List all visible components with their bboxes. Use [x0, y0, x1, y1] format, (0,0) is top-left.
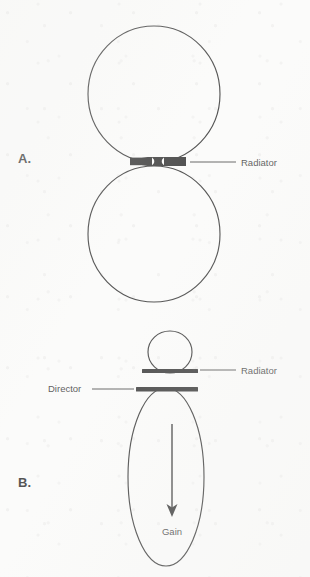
panel-b-letter: B.: [18, 475, 31, 490]
panel-b: B. Radiator Director Gain: [18, 331, 277, 566]
panel-a-radiator-bar-body: [130, 158, 186, 166]
panel-a: A. Radiator: [18, 26, 277, 302]
panel-a-radiator-label: Radiator: [241, 157, 277, 168]
panel-a-lower-lobe: [88, 166, 220, 302]
panel-b-director-label: Director: [48, 383, 81, 394]
panel-b-main-lobe: [128, 388, 204, 566]
panel-a-letter: A.: [18, 151, 31, 166]
antenna-radiation-pattern-figure: A. Radiator B. Radiator: [0, 0, 310, 577]
panel-b-gain-label: Gain: [162, 526, 182, 537]
panel-b-back-lobe: [148, 331, 192, 373]
panel-b-director-bar: [136, 387, 198, 392]
figure-root: A. Radiator B. Radiator: [0, 0, 310, 577]
panel-a-upper-lobe: [88, 26, 220, 162]
panel-b-radiator-bar: [142, 369, 198, 373]
panel-b-radiator-label: Radiator: [241, 365, 277, 376]
